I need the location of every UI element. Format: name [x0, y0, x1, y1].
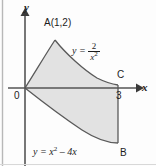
y-axis-label: y: [24, 2, 29, 13]
math-figure: A(1,2) C B 0 3 x y y = 2 x2 y = x2 – 4x: [0, 0, 156, 166]
origin-label: 0: [14, 91, 20, 101]
equation-lower-curve: y = x2 – 4x: [33, 147, 77, 157]
denominator-exponent: 2: [94, 50, 98, 58]
fraction-denominator: x2: [88, 51, 100, 62]
x-axis-label: x: [142, 82, 148, 93]
equation-upper-lhs: y =: [72, 45, 86, 56]
equation-upper-curve: y = 2 x2: [72, 42, 100, 62]
equation-lower-head: y = x: [33, 146, 54, 157]
point-label-b: B: [120, 148, 127, 158]
plot-canvas: [0, 0, 156, 166]
x-tick-label-3: 3: [116, 91, 122, 101]
point-label-a: A(1,2): [44, 18, 71, 28]
fraction-two-over-x-squared: 2 x2: [88, 42, 100, 62]
equation-lower-tail: – 4x: [57, 146, 76, 157]
point-label-c: C: [117, 70, 124, 80]
